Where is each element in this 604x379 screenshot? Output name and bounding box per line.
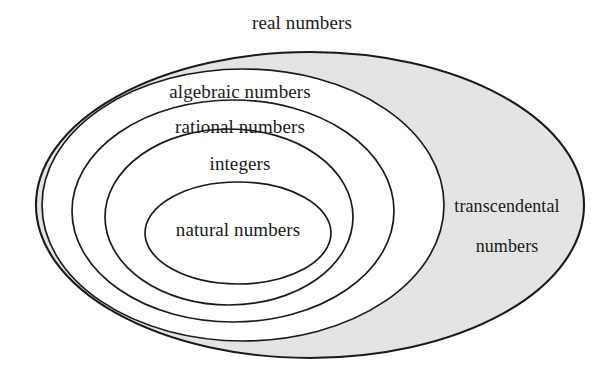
label-integers: integers — [70, 153, 410, 174]
label-transcendental-line-1: transcendental — [454, 196, 559, 216]
label-transcendental-line-2: numbers — [476, 236, 539, 256]
label-rational-numbers: rational numbers — [70, 116, 410, 137]
label-real-numbers: real numbers — [0, 12, 604, 33]
label-algebraic-numbers: algebraic numbers — [70, 81, 410, 102]
label-natural-numbers: natural numbers — [78, 219, 398, 240]
ellipse-algebraic-numbers — [42, 69, 444, 341]
number-sets-euler-diagram: real numbers algebraic numbers rational … — [0, 0, 604, 379]
label-transcendental-numbers: transcendental numbers — [424, 176, 590, 257]
